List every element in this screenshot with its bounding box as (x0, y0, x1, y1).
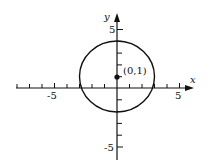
diagram-canvas: (0,1) x y -5 5 5 -5 (0, 0, 210, 168)
x-axis-label: x (190, 74, 196, 85)
center-point (114, 74, 119, 79)
x-axis-arrow-icon (185, 85, 194, 91)
y-tick-label-neg5: -5 (104, 142, 114, 153)
x-tick-label-neg5: -5 (47, 90, 57, 101)
y-axis-label: y (103, 11, 110, 22)
coordinate-plane: (0,1) x y -5 5 5 -5 (0, 0, 210, 168)
x-axis-ticks (17, 83, 180, 88)
y-axis-arrow-icon (114, 13, 120, 22)
x-tick-label-5: 5 (175, 90, 181, 101)
y-tick-label-5: 5 (109, 24, 115, 35)
y-axis (114, 13, 123, 160)
x-axis (16, 83, 194, 91)
center-point-label: (0,1) (123, 65, 147, 76)
